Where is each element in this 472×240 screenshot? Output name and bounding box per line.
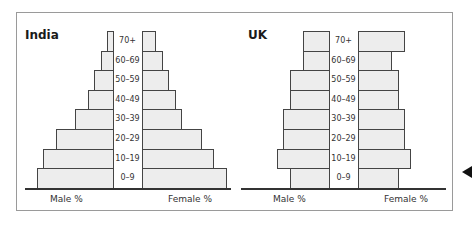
uk-male-bar (303, 51, 330, 72)
arrow-left-icon (462, 166, 472, 178)
uk-female-bar (358, 149, 411, 170)
uk-baseline (241, 188, 446, 190)
uk-age-label: 50–59 (329, 75, 358, 84)
india-male-bar (56, 129, 114, 150)
india-male-bar (43, 149, 114, 170)
uk-male-bar (290, 168, 330, 189)
india-female-bar (142, 70, 169, 91)
india-age-label: 10–19 (113, 154, 142, 163)
uk-female-bar (358, 129, 405, 150)
india-age-label: 0–9 (113, 173, 142, 182)
uk-age-label: 40–49 (329, 95, 358, 104)
uk-male-bar (283, 129, 330, 150)
india-age-label: 20–29 (113, 134, 142, 143)
uk-male-bar (290, 70, 330, 91)
uk-age-label: 30–39 (329, 114, 358, 123)
india-male-bar (94, 70, 114, 91)
uk-male-bar (277, 149, 330, 170)
uk-female-bar (358, 168, 399, 189)
india-female-bar (142, 51, 163, 72)
uk-female-bar (358, 70, 399, 91)
uk-chart-title: UK (248, 28, 267, 42)
india-female-bar (142, 31, 156, 52)
uk-age-label: 60–69 (329, 56, 358, 65)
india-age-label: 40–49 (113, 95, 142, 104)
india-age-label: 60–69 (113, 56, 142, 65)
india-male-axis-label: Male % (50, 194, 83, 204)
india-male-bar (88, 90, 114, 111)
india-male-bar (37, 168, 114, 189)
india-age-label: 70+ (113, 36, 142, 45)
uk-age-label: 0–9 (329, 173, 358, 182)
india-baseline (25, 188, 231, 190)
uk-male-axis-label: Male % (273, 194, 306, 204)
india-chart-title: India (25, 28, 59, 42)
india-female-bar (142, 129, 202, 150)
uk-female-bar (358, 109, 405, 130)
uk-female-axis-label: Female % (384, 194, 428, 204)
india-male-bar (75, 109, 114, 130)
india-female-bar (142, 90, 176, 111)
uk-male-bar (283, 109, 330, 130)
uk-female-bar (358, 31, 405, 52)
india-female-bar (142, 109, 182, 130)
uk-age-label: 70+ (329, 36, 358, 45)
india-age-label: 50–59 (113, 75, 142, 84)
uk-age-label: 10–19 (329, 154, 358, 163)
uk-male-bar (303, 31, 330, 52)
uk-male-bar (290, 90, 330, 111)
india-female-bar (142, 168, 227, 189)
uk-age-label: 20–29 (329, 134, 358, 143)
india-age-label: 30–39 (113, 114, 142, 123)
india-female-axis-label: Female % (168, 194, 212, 204)
uk-female-bar (358, 51, 392, 72)
uk-female-bar (358, 90, 399, 111)
india-female-bar (142, 149, 214, 170)
